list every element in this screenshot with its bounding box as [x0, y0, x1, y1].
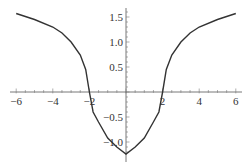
plot-area: −6−4−22461.51.00.5−0.5−1.0: [0, 0, 245, 165]
x-tick-label: 6: [233, 95, 239, 107]
y-tick-label: −0.5: [103, 111, 123, 123]
y-tick-label: 1.0: [109, 36, 123, 48]
chart: −6−4−22461.51.00.5−0.5−1.0: [0, 0, 245, 165]
y-tick-label: 1.5: [109, 11, 123, 23]
x-tick-label: 4: [196, 95, 202, 107]
x-tick-label: −2: [84, 95, 96, 107]
x-tick-label: −4: [47, 95, 59, 107]
x-tick-label: −6: [10, 95, 22, 107]
y-tick-label: −1.0: [103, 136, 123, 148]
axes: −6−4−22461.51.00.5−0.5−1.0: [10, 8, 242, 162]
y-tick-label: 0.5: [109, 61, 123, 73]
